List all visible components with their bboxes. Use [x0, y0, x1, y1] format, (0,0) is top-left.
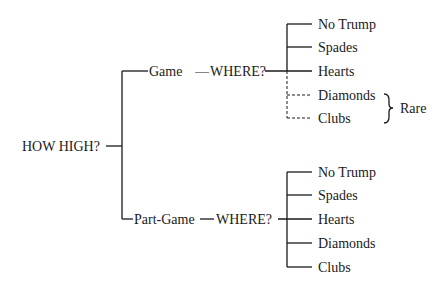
branch-part-game-label: Part-Game — [134, 212, 195, 227]
root-label: HOW HIGH? — [22, 139, 100, 154]
branch-part-game-question: WHERE? — [216, 212, 272, 227]
game-option-no-trump: No Trump — [318, 17, 376, 32]
part-game-option-clubs: Clubs — [318, 260, 351, 275]
part-game-option-spades: Spades — [318, 188, 358, 203]
part-game-option-hearts: Hearts — [318, 212, 355, 227]
game-option-clubs: Clubs — [318, 111, 351, 126]
bidding-decision-tree: HOW HIGH? Game — WHERE? No Trump Spades … — [0, 0, 447, 288]
game-option-spades: Spades — [318, 40, 358, 55]
game-option-hearts: Hearts — [318, 64, 355, 79]
part-game-option-no-trump: No Trump — [318, 165, 376, 180]
branch-part-game: Part-Game WHERE? No Trump Spades Hearts … — [122, 165, 376, 275]
rare-annotation: Rare — [400, 101, 426, 116]
branch-game-dash: — — [194, 64, 210, 79]
branch-game-label: Game — [149, 64, 182, 79]
part-game-option-diamonds: Diamonds — [318, 236, 376, 251]
branch-game-question: WHERE? — [210, 64, 266, 79]
game-option-diamonds: Diamonds — [318, 88, 376, 103]
rare-brace-icon — [384, 94, 393, 123]
branch-game: Game — WHERE? No Trump Spades Hearts Dia… — [122, 17, 426, 126]
